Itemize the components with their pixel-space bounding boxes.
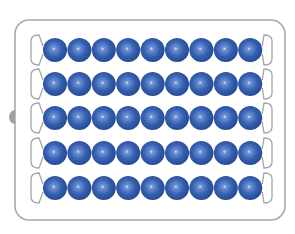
bead bbox=[67, 72, 91, 96]
bead bbox=[67, 38, 91, 62]
bead bbox=[116, 38, 140, 62]
wire-left-loop bbox=[31, 69, 43, 99]
bead bbox=[67, 141, 91, 165]
wire-right-loop bbox=[262, 103, 272, 133]
bead-row-4 bbox=[43, 141, 262, 165]
bead bbox=[189, 141, 213, 165]
abacus-illustration bbox=[0, 0, 295, 234]
bead bbox=[238, 106, 262, 130]
bead bbox=[165, 141, 189, 165]
bead bbox=[92, 106, 116, 130]
bead bbox=[214, 106, 238, 130]
wire-right-loop bbox=[262, 69, 272, 99]
frame-knob bbox=[9, 110, 15, 124]
bead bbox=[165, 106, 189, 130]
bead bbox=[43, 72, 67, 96]
bead bbox=[189, 72, 213, 96]
bead bbox=[189, 176, 213, 200]
bead-row-1 bbox=[43, 38, 262, 62]
wire-right-loop bbox=[262, 138, 272, 168]
bead bbox=[43, 38, 67, 62]
bead-row-5 bbox=[43, 176, 262, 200]
bead bbox=[116, 106, 140, 130]
bead bbox=[67, 176, 91, 200]
bead bbox=[141, 141, 165, 165]
bead bbox=[189, 106, 213, 130]
bead bbox=[214, 72, 238, 96]
bead bbox=[141, 38, 165, 62]
bead bbox=[43, 106, 67, 130]
bead bbox=[92, 176, 116, 200]
bead bbox=[92, 72, 116, 96]
bead bbox=[116, 141, 140, 165]
bead bbox=[92, 38, 116, 62]
bead bbox=[141, 176, 165, 200]
bead bbox=[238, 72, 262, 96]
wire-left-loop bbox=[31, 138, 43, 168]
wire-left-loop bbox=[31, 103, 43, 133]
abacus-svg bbox=[0, 0, 295, 234]
bead bbox=[43, 141, 67, 165]
bead-rows bbox=[43, 38, 262, 200]
bead bbox=[238, 176, 262, 200]
bead-row-3 bbox=[43, 106, 262, 130]
bead bbox=[43, 176, 67, 200]
bead bbox=[214, 176, 238, 200]
bead bbox=[116, 176, 140, 200]
bead bbox=[92, 141, 116, 165]
wire-left-loop bbox=[31, 35, 43, 65]
bead bbox=[238, 38, 262, 62]
bead bbox=[165, 176, 189, 200]
bead bbox=[189, 38, 213, 62]
bead bbox=[214, 141, 238, 165]
bead bbox=[67, 106, 91, 130]
bead bbox=[141, 106, 165, 130]
bead bbox=[141, 72, 165, 96]
bead bbox=[238, 141, 262, 165]
wire-left-loop bbox=[31, 173, 43, 203]
bead bbox=[214, 38, 238, 62]
bead bbox=[165, 38, 189, 62]
bead bbox=[116, 72, 140, 96]
wire-right-loop bbox=[262, 173, 272, 203]
bead bbox=[165, 72, 189, 96]
bead-row-2 bbox=[43, 72, 262, 96]
wire-right-loop bbox=[262, 35, 272, 65]
